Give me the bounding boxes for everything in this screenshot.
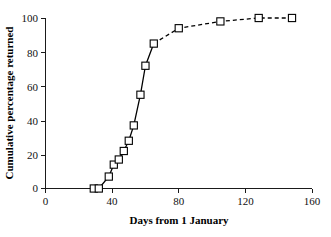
y-tick-label-40: 40 (27, 115, 39, 127)
data-point-marker (125, 137, 132, 144)
data-point-marker (255, 14, 262, 21)
x-axis-title: Days from 1 January (129, 214, 229, 226)
x-tick-label-160: 160 (304, 195, 321, 207)
line-chart: 100 80 60 40 20 0 0 40 80 120 160 Days f… (0, 0, 331, 237)
y-tick-label-20: 20 (27, 149, 39, 161)
x-axis-tick-labels: 0 40 80 120 160 (43, 195, 321, 207)
data-point-marker (288, 14, 295, 21)
x-tick-label-0: 0 (43, 195, 49, 207)
data-point-marker (115, 156, 122, 163)
x-tick-label-80: 80 (173, 195, 185, 207)
y-tick-label-60: 60 (27, 81, 39, 93)
x-tick-label-40: 40 (107, 195, 119, 207)
data-series (90, 14, 295, 192)
data-point-marker (105, 173, 112, 180)
y-axis-tick-labels: 100 80 60 40 20 0 (22, 12, 39, 194)
data-point-marker (120, 147, 127, 154)
y-tick-label-80: 80 (27, 47, 39, 59)
x-axis-ticks (46, 189, 313, 194)
y-axis-ticks (41, 19, 46, 189)
data-point-marker (217, 18, 224, 25)
y-tick-label-0: 0 (33, 182, 39, 194)
x-tick-label-120: 120 (237, 195, 254, 207)
data-point-marker (150, 40, 157, 47)
data-point-marker (130, 122, 137, 129)
data-point-marker (137, 91, 144, 98)
y-axis-title: Cumulative percentage returned (3, 27, 15, 180)
data-point-marker (142, 62, 149, 69)
data-point-marker (175, 25, 182, 32)
y-tick-label-100: 100 (22, 12, 39, 24)
chart-container: 100 80 60 40 20 0 0 40 80 120 160 Days f… (0, 0, 331, 237)
data-point-marker (95, 185, 102, 192)
